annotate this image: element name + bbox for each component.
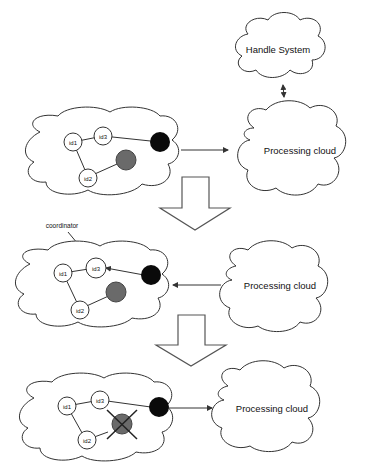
node-cloud-3 bbox=[19, 373, 172, 461]
black-node bbox=[150, 132, 170, 152]
grey-node bbox=[106, 282, 126, 302]
node-id3-label: id3 bbox=[92, 266, 101, 272]
node-id2-label: id2 bbox=[84, 176, 93, 182]
processing-cloud-1-label: Processing cloud bbox=[264, 145, 336, 156]
node-id1-label: id1 bbox=[63, 404, 72, 410]
node-id2: id2 bbox=[78, 431, 96, 449]
handle-system-cloud: Handle System bbox=[235, 13, 325, 78]
node-id2: id2 bbox=[79, 169, 97, 187]
node-id2-label: id2 bbox=[83, 438, 92, 444]
handle-system-label: Handle System bbox=[246, 44, 311, 55]
node-id3: id3 bbox=[91, 391, 109, 409]
node-id1: id1 bbox=[54, 264, 72, 282]
node-id3: id3 bbox=[94, 127, 112, 145]
diagram-canvas: Handle System Processing cloud id1 id3 i… bbox=[0, 0, 367, 468]
processing-cloud-1: Processing cloud bbox=[238, 101, 346, 195]
node-id1-label: id1 bbox=[69, 140, 78, 146]
node-cloud-2 bbox=[15, 241, 168, 327]
node-id1-label: id1 bbox=[59, 271, 68, 277]
down-block-arrow-2 bbox=[156, 315, 226, 366]
processing-cloud-3: Processing cloud bbox=[212, 361, 320, 452]
node-id3: id3 bbox=[86, 258, 106, 278]
black-node bbox=[141, 265, 161, 285]
coordinator-annotation: coordinator bbox=[46, 222, 79, 229]
node-id3-label: id3 bbox=[96, 398, 105, 404]
node-id2-label: id2 bbox=[76, 308, 85, 314]
processing-cloud-2: Processing cloud bbox=[220, 241, 328, 332]
node-id3-label: id3 bbox=[99, 134, 108, 140]
node-id1: id1 bbox=[58, 397, 76, 415]
down-block-arrow-1 bbox=[160, 177, 230, 230]
processing-cloud-3-label: Processing cloud bbox=[236, 403, 308, 414]
node-id2: id2 bbox=[71, 301, 89, 319]
grey-node bbox=[116, 150, 136, 170]
handle-link-arrow bbox=[283, 85, 284, 97]
processing-cloud-2-label: Processing cloud bbox=[244, 280, 316, 291]
node-id1: id1 bbox=[64, 133, 82, 151]
black-node bbox=[149, 397, 169, 417]
